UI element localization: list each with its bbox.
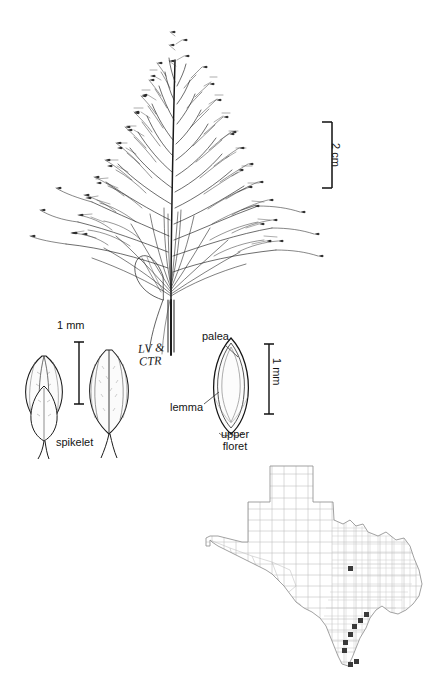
- distribution-marker: [342, 648, 347, 653]
- upper-floret: [214, 338, 249, 436]
- illustration-plate: 2 cm 1 mm 1 mm spikelet palea lemma uppe…: [0, 0, 442, 686]
- scale-label-2cm: 2 cm: [330, 143, 342, 167]
- panicle-drawing: [0, 0, 442, 470]
- texas-state-outline: [206, 466, 422, 666]
- upper-floret-caption-line1: upper: [207, 428, 263, 440]
- spikelet-caption: spikelet: [56, 436, 93, 448]
- scale-label-1mm-spikelet: 1 mm: [57, 319, 85, 331]
- distribution-marker: [348, 632, 353, 637]
- panicle-branches: [30, 32, 318, 355]
- texas-county-distribution-map: [200, 462, 440, 682]
- palea-label: palea: [202, 330, 229, 342]
- distribution-marker: [348, 566, 353, 571]
- county-boundaries: [200, 462, 440, 682]
- distribution-marker: [358, 618, 363, 623]
- scale-bar-1mm-spikelet: [74, 342, 84, 404]
- distribution-marker: [354, 659, 359, 664]
- distribution-marker: [348, 662, 353, 667]
- distribution-marker: [364, 612, 369, 617]
- upper-floret-caption-line2: floret: [207, 440, 263, 452]
- scale-label-1mm-floret: 1 mm: [271, 358, 283, 386]
- spikelet-ventral: [90, 350, 129, 458]
- distribution-marker: [352, 624, 357, 629]
- artist-monogram-line2: CTR: [139, 354, 162, 367]
- lemma-label: lemma: [170, 401, 203, 413]
- distribution-marker: [343, 640, 348, 645]
